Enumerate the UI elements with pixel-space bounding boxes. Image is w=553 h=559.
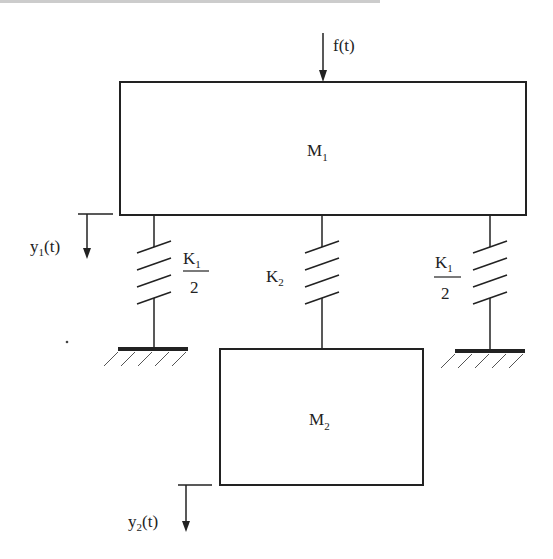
spring-middle-label: K2 — [266, 267, 284, 288]
spring-middle — [305, 215, 339, 349]
spring-right-label: K1 2 — [434, 253, 461, 303]
svg-text:2: 2 — [441, 284, 450, 303]
force-arrow — [319, 33, 327, 82]
y2-label: y2(t) — [128, 512, 158, 533]
spring-left — [137, 215, 171, 348]
y1-displacement-arrow — [78, 214, 113, 259]
mass-m1-box — [120, 82, 526, 215]
svg-text:K1: K1 — [183, 249, 201, 270]
svg-text:2: 2 — [190, 278, 199, 297]
stray-dot — [66, 341, 69, 344]
ground-left — [104, 349, 188, 366]
spring-right — [473, 215, 507, 350]
ground-right — [441, 351, 525, 368]
y1-label: y1(t) — [30, 237, 60, 258]
cropped-header-text — [0, 0, 380, 3]
mass-m1-label: M1 — [307, 141, 328, 163]
force-label: f(t) — [333, 36, 355, 55]
spring-left-label: K1 2 — [183, 249, 209, 297]
y2-displacement-arrow — [178, 485, 212, 532]
mass-m2-label: M2 — [309, 410, 330, 432]
mass-spring-diagram: f(t) M1 y1(t) K1 2 — [0, 0, 553, 559]
svg-text:K1: K1 — [435, 253, 453, 274]
